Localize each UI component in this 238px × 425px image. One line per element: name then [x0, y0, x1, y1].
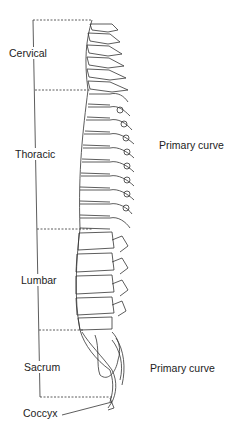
vertebral-column — [76, 20, 134, 410]
region-label-cervical: Cervical — [8, 47, 48, 59]
lumbar-vertebrae — [76, 232, 128, 330]
region-label-thoracic: Thoracic — [14, 148, 56, 160]
curve-label-sacral: Primary curve — [149, 362, 216, 374]
cervical-vertebrae — [87, 24, 128, 92]
region-label-coccyx: Coccyx — [22, 407, 58, 419]
sacrum-coccyx — [82, 332, 124, 410]
curve-label-thoracic: Primary curve — [158, 139, 225, 151]
region-label-sacrum: Sacrum — [23, 361, 61, 373]
region-label-lumbar: Lumbar — [20, 274, 58, 286]
thoracic-vertebrae — [80, 93, 134, 229]
